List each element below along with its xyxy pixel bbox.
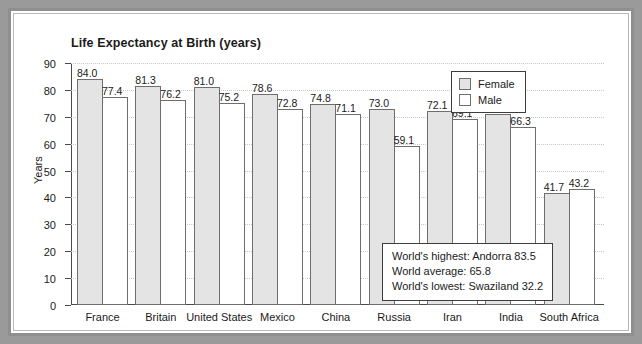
y-tick: 50 xyxy=(65,171,71,172)
legend-swatch-female xyxy=(459,78,471,90)
bar-male: 76.2 xyxy=(160,100,186,305)
bar-value-label: 66.3 xyxy=(510,115,530,127)
bar-value-label: 41.7 xyxy=(544,181,564,193)
y-tick-label: 80 xyxy=(44,85,56,97)
bar-value-label: 76.2 xyxy=(160,88,180,100)
bar-group: 81.075.2United States xyxy=(194,63,245,305)
bar-group: 78.672.8Mexico xyxy=(252,63,303,305)
x-axis-category-label: United States xyxy=(186,311,252,323)
annotation-line-highest: World's highest: Andorra 83.5 xyxy=(392,249,543,264)
plot-area: 0102030405060708090 84.077.4France81.376… xyxy=(71,63,604,305)
figure-frame: Life Expectancy at Birth (years) Years 0… xyxy=(8,8,634,336)
legend-item-female: Female xyxy=(459,76,515,92)
bar-value-label: 81.3 xyxy=(135,74,155,86)
bar-value-label: 72.1 xyxy=(427,99,447,111)
bar-value-label: 75.2 xyxy=(219,91,239,103)
bar-value-label: 43.2 xyxy=(569,177,589,189)
bar-female: 84.0 xyxy=(77,79,103,305)
legend-swatch-male xyxy=(459,94,471,106)
x-axis-category-label: India xyxy=(499,311,523,323)
y-tick-label: 40 xyxy=(44,192,56,204)
bar-value-label: 77.4 xyxy=(102,85,122,97)
bar-group: 84.077.4France xyxy=(77,63,128,305)
bar-value-label: 84.0 xyxy=(77,67,97,79)
y-tick-label: 30 xyxy=(44,219,56,231)
bar-value-label: 72.8 xyxy=(277,97,297,109)
bar-group: 81.376.2Britain xyxy=(135,63,186,305)
bar-value-label: 73.0 xyxy=(369,97,389,109)
annotation-line-lowest: World's lowest: Swaziland 32.2 xyxy=(392,279,543,294)
x-axis-category-label: China xyxy=(321,311,350,323)
x-axis-category-label: Russia xyxy=(377,311,411,323)
figure-inner-panel: Life Expectancy at Birth (years) Years 0… xyxy=(13,13,629,331)
bar-female: 81.0 xyxy=(194,87,220,305)
bar-value-label: 81.0 xyxy=(194,75,214,87)
legend-label-female: Female xyxy=(478,78,515,90)
y-tick: 30 xyxy=(65,224,71,225)
y-tick: 90 xyxy=(65,63,71,64)
annotation-box: World's highest: Andorra 83.5 World aver… xyxy=(382,243,553,301)
x-axis-category-label: Iran xyxy=(443,311,462,323)
bar-female: 74.8 xyxy=(310,104,336,305)
x-axis-category-label: Mexico xyxy=(260,311,295,323)
bar-female: 78.6 xyxy=(252,94,278,305)
y-tick-label: 90 xyxy=(44,58,56,70)
y-tick: 40 xyxy=(65,197,71,198)
bar-group: 74.871.1China xyxy=(310,63,361,305)
bar-male: 71.1 xyxy=(335,114,361,305)
bar-value-label: 59.1 xyxy=(394,134,414,146)
y-tick: 60 xyxy=(65,144,71,145)
y-axis-title: Years xyxy=(32,156,44,184)
y-tick-label: 0 xyxy=(50,300,56,312)
bar-male: 43.2 xyxy=(569,189,595,305)
annotation-line-average: World average: 65.8 xyxy=(392,264,543,279)
y-tick: 20 xyxy=(65,251,71,252)
x-axis-category-label: South Africa xyxy=(539,311,598,323)
legend: Female Male xyxy=(451,71,526,113)
legend-label-male: Male xyxy=(478,94,502,106)
bar-male: 75.2 xyxy=(219,103,245,305)
y-tick: 80 xyxy=(65,90,71,91)
legend-item-male: Male xyxy=(459,92,515,108)
x-axis-category-label: France xyxy=(85,311,119,323)
bar-male: 72.8 xyxy=(277,109,303,305)
bar-value-label: 71.1 xyxy=(335,102,355,114)
y-tick-label: 20 xyxy=(44,246,56,258)
y-tick-label: 50 xyxy=(44,166,56,178)
x-axis-category-label: Britain xyxy=(145,311,176,323)
y-tick-label: 70 xyxy=(44,112,56,124)
bar-value-label: 78.6 xyxy=(252,82,272,94)
y-tick-label: 10 xyxy=(44,273,56,285)
y-tick: 0 xyxy=(65,305,71,306)
y-tick: 70 xyxy=(65,117,71,118)
chart-title: Life Expectancy at Birth (years) xyxy=(71,36,261,50)
bar-value-label: 74.8 xyxy=(310,92,330,104)
bar-female: 81.3 xyxy=(135,86,161,305)
y-tick: 10 xyxy=(65,278,71,279)
bar-male: 77.4 xyxy=(102,97,128,305)
y-tick-label: 60 xyxy=(44,139,56,151)
